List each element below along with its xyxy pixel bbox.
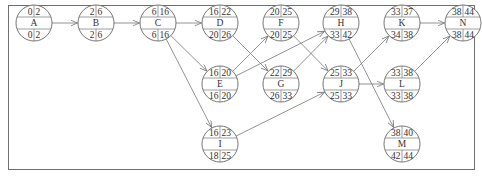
- node-a: 02A02: [16, 5, 52, 41]
- late-start: 6: [152, 30, 157, 40]
- early-finish: 23: [222, 128, 232, 138]
- activity-label: J: [339, 79, 343, 89]
- early-finish: 38: [343, 7, 353, 17]
- late-start: 26: [270, 91, 280, 101]
- early-start: 0: [28, 7, 33, 17]
- late-finish: 2: [36, 30, 41, 40]
- late-finish: 6: [98, 30, 103, 40]
- network-canvas: 02A0226B26616C6161622D20262025F20252938H…: [0, 0, 482, 176]
- node-h: 2938H3342: [323, 5, 359, 41]
- late-finish: 38: [404, 30, 414, 40]
- node-n: 3844N3844: [445, 5, 481, 41]
- early-finish: 25: [283, 7, 293, 17]
- late-finish: 25: [283, 30, 293, 40]
- activity-label: I: [218, 139, 221, 149]
- node-k: 3337K3438: [384, 5, 420, 41]
- late-finish: 33: [283, 91, 293, 101]
- activity-label: K: [399, 18, 406, 28]
- early-finish: 40: [404, 128, 414, 138]
- early-start: 38: [391, 128, 401, 138]
- activity-label: F: [278, 18, 283, 28]
- activity-label: M: [398, 139, 407, 149]
- late-start: 25: [330, 91, 340, 101]
- node-m: 3840M4244: [384, 126, 420, 162]
- early-start: 25: [330, 68, 340, 78]
- early-finish: 33: [343, 68, 353, 78]
- late-start: 20: [209, 30, 219, 40]
- early-finish: 37: [404, 7, 414, 17]
- early-finish: 2: [36, 7, 41, 17]
- late-finish: 33: [343, 91, 353, 101]
- early-start: 16: [209, 68, 219, 78]
- late-start: 18: [209, 151, 219, 161]
- late-start: 2: [90, 30, 95, 40]
- activity-label: A: [31, 18, 38, 28]
- node-g: 2229G2633: [263, 66, 299, 102]
- early-start: 33: [391, 68, 401, 78]
- late-finish: 38: [404, 91, 414, 101]
- late-start: 33: [330, 30, 340, 40]
- activity-label: N: [460, 18, 467, 28]
- early-start: 16: [209, 128, 219, 138]
- late-finish: 26: [222, 30, 232, 40]
- early-finish: 22: [222, 7, 232, 17]
- node-i: 1623I1825: [202, 126, 238, 162]
- node-d: 1622D2026: [202, 5, 238, 41]
- late-finish: 16: [160, 30, 170, 40]
- activity-label: C: [155, 18, 161, 28]
- network-diagram: 02A0226B26616C6161622D20262025F20252938H…: [0, 0, 482, 176]
- late-start: 20: [270, 30, 280, 40]
- late-finish: 44: [465, 30, 475, 40]
- late-finish: 20: [222, 91, 232, 101]
- activity-label: L: [399, 79, 405, 89]
- early-start: 29: [330, 7, 340, 17]
- late-start: 33: [391, 91, 401, 101]
- late-start: 42: [391, 151, 401, 161]
- node-l: 3338L3338: [384, 66, 420, 102]
- edge-c-e: [171, 36, 207, 71]
- early-start: 20: [270, 7, 280, 17]
- edge-l-n: [415, 36, 450, 71]
- late-start: 38: [452, 30, 462, 40]
- activity-label: G: [278, 79, 285, 89]
- early-start: 22: [270, 68, 280, 78]
- late-finish: 25: [222, 151, 232, 161]
- activity-label: D: [217, 18, 224, 28]
- late-start: 0: [28, 30, 33, 40]
- late-start: 34: [391, 30, 401, 40]
- late-finish: 44: [404, 151, 414, 161]
- early-start: 33: [391, 7, 401, 17]
- node-b: 26B26: [78, 5, 114, 41]
- activity-label: H: [338, 18, 345, 28]
- early-finish: 44: [465, 7, 475, 17]
- early-finish: 20: [222, 68, 232, 78]
- early-finish: 6: [98, 7, 103, 17]
- node-c: 616C616: [140, 5, 176, 41]
- early-finish: 16: [160, 7, 170, 17]
- node-e: 1620E1620: [202, 66, 238, 102]
- late-finish: 42: [343, 30, 353, 40]
- early-start: 2: [90, 7, 95, 17]
- node-j: 2533J2533: [323, 66, 359, 102]
- early-start: 38: [452, 7, 462, 17]
- node-f: 2025F2025: [263, 5, 299, 41]
- activity-label: B: [93, 18, 99, 28]
- activity-label: E: [217, 79, 223, 89]
- early-start: 6: [152, 7, 157, 17]
- early-finish: 29: [283, 68, 293, 78]
- nodes-layer: 02A0226B26616C6161622D20262025F20252938H…: [16, 5, 481, 162]
- edge-j-k: [354, 36, 389, 71]
- late-start: 16: [209, 91, 219, 101]
- early-start: 16: [209, 7, 219, 17]
- early-finish: 38: [404, 68, 414, 78]
